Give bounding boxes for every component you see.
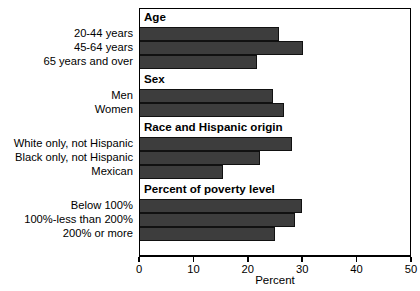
group-header-sex: Sex xyxy=(144,73,165,85)
x-tick-mark-40 xyxy=(356,257,358,262)
category-label-45-64-years: 45-64 years xyxy=(74,41,133,53)
bar-men xyxy=(140,89,273,103)
bar-200-percent-or-more xyxy=(140,227,275,241)
x-tick-mark-0 xyxy=(138,257,140,262)
group-header-race-and-hispanic-origin: Race and Hispanic origin xyxy=(144,121,283,133)
bar-45-64-years xyxy=(140,41,303,55)
category-label-65-years-and-over: 65 years and over xyxy=(43,55,133,67)
group-header-age: Age xyxy=(144,11,166,23)
bar-women xyxy=(140,103,284,117)
bar-100-percent-less-than-200-percent xyxy=(140,213,295,227)
x-axis-title: Percent xyxy=(139,274,411,286)
category-label-below-100-percent: Below 100% xyxy=(71,199,133,211)
category-label-mexican: Mexican xyxy=(91,165,133,177)
category-label-200-percent-or-more: 200% or more xyxy=(63,227,133,239)
category-label-white-only-not-hispanic: White only, not Hispanic xyxy=(14,137,133,149)
bar-65-years-and-over xyxy=(140,55,257,69)
bar-mexican xyxy=(140,165,223,179)
x-axis: 01020304050 xyxy=(139,256,411,258)
bar-chart: Age Sex Race and Hispanic origin Percent… xyxy=(0,0,420,291)
bar-20-44-years xyxy=(140,27,279,41)
x-tick-mark-10 xyxy=(193,257,195,262)
x-tick-mark-50 xyxy=(410,257,412,262)
bar-below-100-percent xyxy=(140,199,302,213)
category-label-20-44-years: 20-44 years xyxy=(74,27,133,39)
x-tick-mark-30 xyxy=(301,257,303,262)
category-label-men: Men xyxy=(111,89,133,101)
category-label-women: Women xyxy=(95,103,133,115)
category-label-100-percent-less-than-200-percent: 100%-less than 200% xyxy=(24,213,133,225)
plot-area: Age Sex Race and Hispanic origin Percent… xyxy=(139,8,411,256)
bar-black-only-not-hispanic xyxy=(140,151,260,165)
category-label-black-only-not-hispanic: Black only, not Hispanic xyxy=(15,151,133,163)
bar-white-only-not-hispanic xyxy=(140,137,292,151)
x-tick-mark-20 xyxy=(247,257,249,262)
category-label-column: 20-44 years 45-64 years 65 years and ove… xyxy=(0,8,136,256)
group-header-percent-of-poverty-level: Percent of poverty level xyxy=(144,183,275,195)
